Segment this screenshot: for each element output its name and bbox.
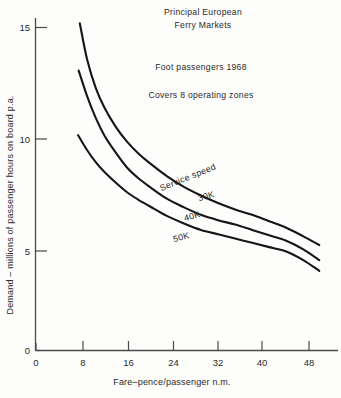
chart-plot-area: 15 10 5 0 0 8 16 24 32 40 48 Fare–pence/… [0, 0, 341, 398]
data-curves [78, 23, 319, 271]
annotation-operating-zones: Covers 8 operating zones [148, 90, 253, 100]
x-tick-label-16: 16 [123, 357, 134, 368]
chart-title-line2: Ferry Markets [175, 20, 232, 30]
series-label-50K: 50K [172, 230, 191, 244]
x-axis-tick-labels: 0 8 16 24 32 40 48 [33, 357, 314, 368]
x-tick-label-48: 48 [304, 357, 315, 368]
chart-figure: 15 10 5 0 0 8 16 24 32 40 48 Fare–pence/… [0, 0, 341, 398]
x-axis-ticks [36, 341, 309, 351]
series-label-40K: 40K [183, 209, 202, 223]
x-tick-label-32: 32 [213, 357, 224, 368]
x-tick-label-40: 40 [257, 357, 268, 368]
y-tick-label-15: 15 [19, 22, 30, 33]
x-tick-label-8: 8 [80, 357, 85, 368]
y-axis-title: Demand – millions of passenger hours on … [5, 95, 15, 314]
annotation-foot-passengers: Foot passengers 1968 [155, 62, 247, 72]
x-tick-label-0: 0 [33, 357, 38, 368]
chart-title-line1: Principal European [164, 7, 242, 17]
y-tick-label-10: 10 [19, 134, 30, 145]
y-axis-ticks [36, 28, 48, 351]
x-axis-title: Fare–pence/passenger n.m. [113, 377, 231, 387]
x-tick-label-24: 24 [168, 357, 179, 368]
y-tick-label-0: 0 [25, 345, 30, 356]
y-tick-label-5: 5 [25, 246, 30, 257]
y-axis-tick-labels: 15 10 5 0 [19, 22, 30, 356]
